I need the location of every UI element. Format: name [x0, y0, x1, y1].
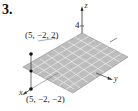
point-upper-label: (5, −2, 2)	[25, 30, 59, 40]
x-axis-label: x	[18, 88, 23, 97]
z-axis-label: z	[84, 1, 89, 10]
plane-intersection-point	[29, 69, 32, 72]
z-axis-arrow-icon	[81, 6, 84, 11]
z-tick-label: 4	[75, 20, 80, 30]
plane	[23, 33, 128, 93]
point-upper	[29, 52, 33, 56]
y-axis-back	[110, 38, 117, 42]
y-axis-arrow-icon	[108, 77, 114, 81]
y-axis-label: y	[113, 74, 118, 83]
point-lower-label: (5, −2, −2)	[26, 94, 65, 104]
point-lower	[29, 87, 33, 91]
plane-diagram: z 4 y x (5, −2, 2) (5, −2, −2)	[0, 0, 138, 111]
